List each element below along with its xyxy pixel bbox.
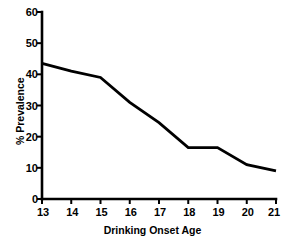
- y-tick-label-50: 50: [16, 38, 38, 49]
- y-tick-label-0: 0: [16, 194, 38, 205]
- line-chart-plot: [0, 0, 285, 241]
- chart-figure: 60 50 40 30 20 10 0 13 14 15 16 17 18 19…: [0, 0, 285, 241]
- axis-lines: [42, 12, 276, 199]
- x-tick-label-16: 16: [125, 207, 137, 218]
- prevalence-line-series: [42, 63, 276, 171]
- x-tick-label-14: 14: [66, 207, 78, 218]
- x-tick-label-13: 13: [37, 207, 49, 218]
- x-tick-label-21: 21: [268, 207, 280, 218]
- y-axis-title: % Prevalence: [14, 77, 26, 145]
- x-tick-label-17: 17: [154, 207, 166, 218]
- x-tick-label-19: 19: [212, 207, 224, 218]
- x-tick-label-20: 20: [242, 207, 254, 218]
- x-tick-label-18: 18: [183, 207, 195, 218]
- y-tick-label-60: 60: [16, 7, 38, 18]
- x-axis-title: Drinking Onset Age: [0, 224, 285, 236]
- x-tick-label-15: 15: [95, 207, 107, 218]
- y-tick-label-10: 10: [16, 162, 38, 173]
